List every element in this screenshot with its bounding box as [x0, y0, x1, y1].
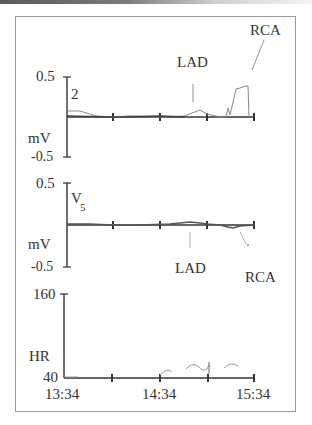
p1-lead-label: 2: [71, 86, 79, 102]
p2-rca-annotation: RCA: [245, 269, 276, 285]
rca-pointer-top: [252, 40, 264, 70]
p1-ytop-label: 0.5: [36, 68, 55, 84]
p3-unit-label: HR: [29, 348, 50, 364]
p3-ybot-label: 40: [43, 369, 58, 385]
p1-ybot-label: -0.5: [31, 149, 53, 164]
trace-lead-2: [67, 86, 249, 117]
panel-lead-2: [63, 40, 264, 157]
p1-rca-annotation: RCA: [250, 22, 281, 38]
x-tick-13-34: 13:34: [45, 386, 80, 402]
panel-heart-rate: [60, 294, 254, 382]
panel-lead-v5: [63, 183, 254, 267]
p2-ybot-label: -0.5: [31, 259, 53, 274]
p1-unit-label: mV: [28, 130, 51, 146]
rca-pointer-mid: [240, 232, 246, 244]
p2-ytop-label: 0.5: [36, 175, 55, 191]
ecg-trend-figure: 0.5 -0.5 mV 2 LAD RCA 0.5 -0.5 mV V 5 LA…: [0, 0, 312, 425]
trace-heart-rate: [64, 364, 238, 377]
x-tick-14-34: 14:34: [142, 386, 177, 402]
p1-lad-annotation: LAD: [177, 54, 208, 70]
p3-ytop-label: 160: [33, 286, 56, 302]
p2-unit-label: mV: [28, 236, 51, 252]
x-tick-15-34: 15:34: [236, 386, 271, 402]
p2-lead-subscript: 5: [80, 201, 86, 213]
p2-lad-annotation: LAD: [175, 260, 206, 276]
